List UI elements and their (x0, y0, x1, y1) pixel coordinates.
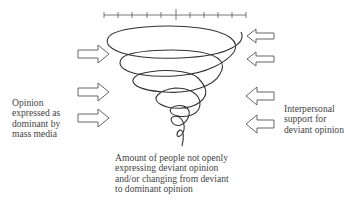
opinion-scale (104, 9, 246, 20)
arrow-right-icon (78, 109, 109, 127)
label-line: deviant opinion (284, 125, 344, 135)
arrow-left-icon (247, 52, 274, 66)
arrow-right-icon (78, 45, 109, 63)
left-arrows (78, 45, 109, 127)
arrow-left-icon (246, 87, 274, 105)
spiral-curve (107, 26, 242, 146)
mass-media-opinion-label: Opinion expressed as dominant by mass me… (12, 98, 60, 139)
arrow-left-icon (247, 29, 274, 43)
interpersonal-support-label: Interpersonal support for deviant opinio… (284, 104, 344, 135)
label-line: to dominant opinion (115, 184, 229, 194)
arrow-right-icon (78, 83, 109, 101)
label-line: mass media (12, 129, 60, 139)
arrow-left-icon (246, 115, 274, 133)
silenced-people-label: Amount of people not openly expressing d… (115, 153, 229, 194)
right-arrows (246, 29, 274, 133)
